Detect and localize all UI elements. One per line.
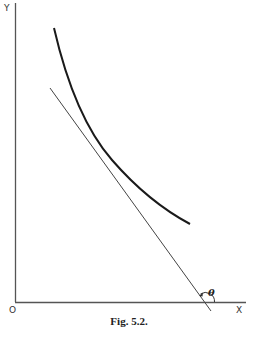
convex-curve <box>54 28 190 224</box>
tangent-line <box>50 88 211 311</box>
tangent-diagram: Y O X θ Fig. 5.2. <box>0 0 258 338</box>
origin-label: O <box>9 305 16 315</box>
theta-label: θ <box>208 287 215 298</box>
figure-caption: Fig. 5.2. <box>110 315 148 327</box>
x-axis-label: X <box>236 305 242 315</box>
y-axis-label: Y <box>3 3 10 13</box>
